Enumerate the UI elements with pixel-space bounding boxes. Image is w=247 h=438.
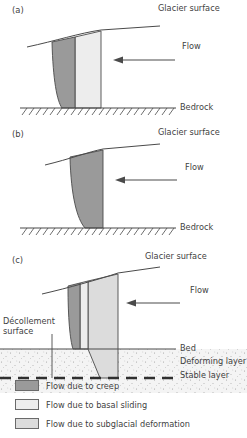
legend-swatch-basal-sliding [15, 399, 39, 410]
panel-c-glacier-surface-label: Glacier surface [145, 252, 207, 262]
panel-a-flow-arrow [113, 57, 175, 64]
panel-c-flow-label: Flow [190, 286, 209, 296]
panel-b-flow-label: Flow [185, 163, 204, 173]
panel-c-tag: (c) [12, 256, 23, 266]
legend: Flow due to creep Flow due to basal slid… [15, 376, 235, 433]
panel-c-flow-arrow [126, 300, 180, 307]
legend-swatch-subglacial-deformation [15, 418, 39, 429]
panel-c-creep-profile [68, 283, 80, 349]
legend-item-creep: Flow due to creep [15, 376, 235, 395]
panel-a-glacier-surface-label: Glacier surface [158, 4, 220, 14]
panel-a-bedrock-label: Bedrock [180, 103, 213, 113]
panel-a-bedrock-hatching [22, 108, 174, 115]
panel-c-deforming-layer-label: Deforming layer [180, 357, 246, 367]
panel-b-graphic [20, 144, 177, 235]
glacier-flow-diagram: (a) Glacier surface Flow Bedrock (b) Gla… [0, 0, 247, 438]
panel-b-bedrock-label: Bedrock [180, 223, 213, 233]
panel-a-creep-profile [52, 37, 75, 108]
panel-b-creep-profile [70, 150, 103, 228]
panel-c-bed-label: Bed [180, 344, 196, 354]
panel-a-flow-label: Flow [182, 42, 201, 52]
panel-c-basal-sliding-band [80, 281, 88, 349]
legend-label-basal-sliding: Flow due to basal sliding [46, 400, 147, 410]
legend-label-subglacial-deformation: Flow due to subglacial deformation [46, 419, 190, 429]
legend-label-creep: Flow due to creep [46, 381, 119, 391]
panel-a-basal-sliding-band [75, 31, 101, 108]
panel-c-decollement-label-line2: surface [3, 327, 33, 337]
panel-b-flow-arrow [115, 177, 177, 184]
legend-item-basal-sliding: Flow due to basal sliding [15, 395, 235, 414]
legend-swatch-creep [15, 380, 39, 391]
legend-item-subglacial-deformation: Flow due to subglacial deformation [15, 414, 235, 433]
panel-b-bedrock-hatching [22, 228, 174, 235]
panel-a-tag: (a) [12, 6, 24, 16]
panel-b-glacier-surface-label: Glacier surface [158, 128, 220, 138]
panel-a-graphic [20, 26, 176, 115]
panel-b-tag: (b) [12, 130, 24, 140]
